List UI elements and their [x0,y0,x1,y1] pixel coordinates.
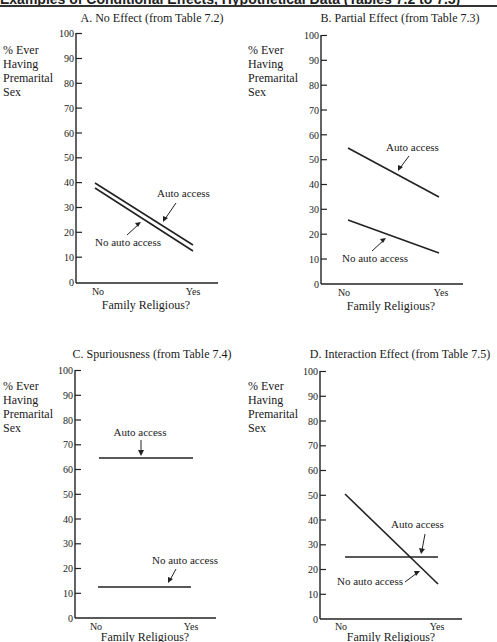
svg-text:20: 20 [64,227,74,238]
panel-d-xlabel: Family Religious? [347,630,435,642]
svg-text:80: 80 [64,78,74,89]
panel-a-y-tick-labels: 10090 8070 6050 4030 2010 0 [59,28,74,288]
svg-text:50: 50 [64,152,74,163]
panel-b-x-no: No [338,287,350,298]
svg-text:80: 80 [309,80,319,91]
svg-text:0: 0 [68,613,73,624]
panel-c-ylabel-4: Sex [3,421,21,435]
svg-text:40: 40 [64,177,74,188]
panel-a-label-auto: Auto access [157,187,210,199]
svg-text:30: 30 [308,539,318,550]
svg-text:60: 60 [64,128,74,139]
panel-d-label-noauto: No auto access [337,575,403,587]
panel-b-line-auto-access [348,148,439,197]
svg-text:0: 0 [313,614,318,625]
svg-text:10: 10 [64,252,74,263]
panel-d-ylabel-1: % Ever [248,379,284,393]
panel-d-label-auto: Auto access [391,518,444,530]
panel-c: C. Spuriousness (from Table 7.4) % Ever … [3,347,231,642]
panel-b-label-auto: Auto access [386,141,439,153]
panel-a-ylabel-4: Sex [3,85,21,99]
panel-d-x-no: No [335,621,347,632]
svg-text:100: 100 [303,366,318,377]
panel-b-x-yes: Yes [434,287,449,298]
svg-text:30: 30 [63,538,73,549]
svg-text:0: 0 [314,279,319,290]
svg-text:90: 90 [64,53,74,64]
svg-text:10: 10 [308,589,318,600]
panel-d-title: D. Interaction Effect (from Table 7.5) [310,347,490,361]
panel-b-xlabel: Family Religious? [347,299,435,313]
panel-b-label-noauto: No auto access [342,252,408,264]
svg-text:10: 10 [63,588,73,599]
panel-d-ylabel-3: Premarital [248,407,299,421]
svg-text:70: 70 [64,103,74,114]
panel-b-line-no-auto-access [348,220,439,253]
panel-a-x-yes: Yes [186,286,201,297]
svg-text:70: 70 [309,105,319,116]
svg-text:0: 0 [69,277,74,288]
panel-c-ylabel-3: Premarital [3,407,54,421]
panel-b-ylabel-2: Having [248,57,283,71]
svg-text:50: 50 [63,489,73,500]
svg-text:70: 70 [308,440,318,451]
svg-text:100: 100 [59,28,74,39]
figure-canvas: A. No Effect (from Table 7.2) % Ever Hav… [0,0,497,642]
panel-a-ylabel-1: % Ever [3,43,39,57]
panel-b-ylabel-3: Premarital [248,71,299,85]
panel-d-ylabel-4: Sex [248,421,266,435]
panel-a-x-no: No [92,286,104,297]
panel-c-label-auto: Auto access [114,426,167,438]
svg-text:20: 20 [63,563,73,574]
panel-a-ylabel-3: Premarital [3,71,54,85]
svg-text:40: 40 [309,179,319,190]
panel-b-ylabel-4: Sex [248,85,266,99]
svg-text:30: 30 [309,204,319,215]
svg-text:50: 50 [308,490,318,501]
panel-d: D. Interaction Effect (from Table 7.5) %… [248,347,490,642]
panel-b: B. Partial Effect (from Table 7.3) % Eve… [248,11,480,313]
panel-d-ylabel-2: Having [248,393,283,407]
svg-text:80: 80 [308,416,318,427]
panel-c-xlabel: Family Religious? [101,630,189,642]
panel-a-xlabel: Family Religious? [102,298,190,312]
svg-text:20: 20 [308,564,318,575]
panel-a-ylabel-2: Having [3,57,38,71]
svg-text:40: 40 [308,515,318,526]
svg-text:80: 80 [63,415,73,426]
svg-text:100: 100 [58,365,73,376]
svg-text:40: 40 [63,514,73,525]
svg-text:90: 90 [308,391,318,402]
panel-a-y-ticks [76,34,82,258]
panel-a-arrow-auto [165,203,176,219]
panel-a-label-noauto: No auto access [95,236,161,248]
svg-text:70: 70 [63,439,73,450]
svg-text:60: 60 [308,465,318,476]
panel-b-title: B. Partial Effect (from Table 7.3) [321,11,480,25]
panel-a: A. No Effect (from Table 7.2) % Ever Hav… [3,11,224,312]
svg-text:20: 20 [309,229,319,240]
svg-text:100: 100 [304,30,319,41]
panel-a-title: A. No Effect (from Table 7.2) [80,11,223,25]
svg-text:90: 90 [63,390,73,401]
svg-text:90: 90 [309,55,319,66]
svg-text:10: 10 [309,254,319,265]
panel-c-ylabel-2: Having [3,393,38,407]
svg-text:60: 60 [309,130,319,141]
svg-text:30: 30 [64,202,74,213]
svg-text:50: 50 [309,154,319,165]
panel-c-title: C. Spuriousness (from Table 7.4) [73,347,232,361]
panel-c-ylabel-1: % Ever [3,379,39,393]
panel-c-label-noauto: No auto access [152,554,218,566]
panel-b-ylabel-1: % Ever [248,43,284,57]
svg-text:60: 60 [63,464,73,475]
